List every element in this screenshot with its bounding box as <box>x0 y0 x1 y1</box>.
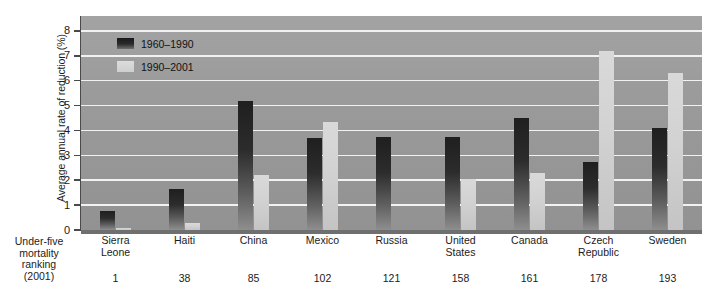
category-label-czech-republic: CzechRepublic <box>564 235 633 258</box>
rank-value-mexico: 102 <box>288 272 357 284</box>
bar-united-states-1990-2001 <box>461 179 476 230</box>
category-label-line: Republic <box>564 247 633 259</box>
category-label-canada: Canada <box>495 235 564 247</box>
category-label-line: Haiti <box>150 235 219 247</box>
bar-haiti-1960-1990 <box>169 189 184 230</box>
legend-item: 1960–1990 <box>117 36 194 51</box>
category-label-russia: Russia <box>357 235 426 247</box>
legend-swatch-1960-1990 <box>117 38 134 49</box>
chart-root: Average annual rate of reduction (%) 876… <box>0 0 709 293</box>
plot-area: 1960–1990 1990–2001 <box>81 16 702 230</box>
legend-swatch-1990-2001 <box>117 61 134 72</box>
category-label-line: China <box>219 235 288 247</box>
y-tick-label-7: 7 <box>52 50 70 61</box>
y-tick-0 <box>74 229 81 231</box>
y-tick-3 <box>74 155 81 157</box>
category-label-mexico: Mexico <box>288 235 357 247</box>
bar-united-states-1960-1990 <box>445 137 460 230</box>
y-tick-7 <box>74 55 81 57</box>
gridline-8 <box>81 30 702 32</box>
corner-line: ranking <box>0 259 78 271</box>
y-tick-label-6: 6 <box>52 75 70 86</box>
x-axis-corner-label: Under-five mortality ranking (2001) <box>0 236 78 282</box>
legend-item: 1990–2001 <box>117 59 194 74</box>
category-label-line: States <box>426 247 495 259</box>
bar-canada-1960-1990 <box>514 118 529 230</box>
category-label-united-states: UnitedStates <box>426 235 495 258</box>
rank-value-russia: 121 <box>357 272 426 284</box>
rank-value-haiti: 38 <box>150 272 219 284</box>
y-axis-title: Average annual rate of reduction (%) <box>55 11 67 226</box>
category-label-sierra-leone: SierraLeone <box>81 235 150 258</box>
category-label-line: Canada <box>495 235 564 247</box>
category-label-line: Mexico <box>288 235 357 247</box>
rank-value-sweden: 193 <box>633 272 702 284</box>
category-label-haiti: Haiti <box>150 235 219 247</box>
category-label-line: Sierra <box>81 235 150 247</box>
category-label-line: Czech <box>564 235 633 247</box>
y-tick-4 <box>74 130 81 132</box>
y-tick-label-5: 5 <box>52 100 70 111</box>
corner-line: (2001) <box>0 271 78 283</box>
y-tick-label-3: 3 <box>52 150 70 161</box>
legend-label-1990-2001: 1990–2001 <box>141 61 194 73</box>
bar-mexico-1990-2001 <box>323 122 338 230</box>
y-tick-label-8: 8 <box>52 25 70 36</box>
bar-haiti-1990-2001 <box>185 223 200 230</box>
bar-sierra-leone-1960-1990 <box>100 211 115 230</box>
category-label-line: Sweden <box>633 235 702 247</box>
y-tick-8 <box>74 30 81 32</box>
bar-china-1960-1990 <box>238 101 253 230</box>
category-label-line: United <box>426 235 495 247</box>
bar-czech-republic-1990-2001 <box>599 51 614 230</box>
category-label-line: Russia <box>357 235 426 247</box>
category-label-china: China <box>219 235 288 247</box>
y-tick-6 <box>74 80 81 82</box>
bar-canada-1990-2001 <box>530 173 545 230</box>
bar-china-1990-2001 <box>254 175 269 230</box>
corner-line: Under-five <box>0 236 78 248</box>
bar-czech-republic-1960-1990 <box>583 162 598 230</box>
bar-russia-1960-1990 <box>376 137 391 230</box>
category-label-sweden: Sweden <box>633 235 702 247</box>
y-tick-label-1: 1 <box>52 200 70 211</box>
rank-value-sierra-leone: 1 <box>81 272 150 284</box>
y-tick-label-2: 2 <box>52 175 70 186</box>
bar-mexico-1960-1990 <box>307 138 322 230</box>
category-label-line: Leone <box>81 247 150 259</box>
bar-sweden-1990-2001 <box>668 73 683 230</box>
y-tick-2 <box>74 179 81 181</box>
y-tick-label-0: 0 <box>52 225 70 236</box>
y-tick-label-4: 4 <box>52 125 70 136</box>
rank-value-canada: 161 <box>495 272 564 284</box>
y-tick-1 <box>74 204 81 206</box>
y-tick-5 <box>74 105 81 107</box>
rank-value-china: 85 <box>219 272 288 284</box>
legend-label-1960-1990: 1960–1990 <box>141 38 194 50</box>
rank-value-united-states: 158 <box>426 272 495 284</box>
bar-sweden-1960-1990 <box>652 128 667 230</box>
rank-value-czech-republic: 178 <box>564 272 633 284</box>
legend: 1960–1990 1990–2001 <box>117 36 194 82</box>
